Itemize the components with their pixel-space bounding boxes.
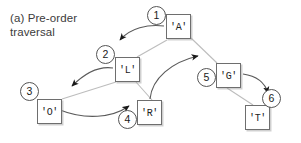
traversal-arrow-a-to-l bbox=[120, 26, 164, 40]
visit-order-badge-3: 3 bbox=[20, 82, 39, 101]
visit-order-badge-6-number: 6 bbox=[263, 90, 280, 107]
tree-edge-a-l bbox=[137, 40, 167, 57]
visit-order-badge-3-number: 3 bbox=[21, 83, 38, 100]
tree-node-o-label: 'O' bbox=[38, 100, 61, 125]
tree-node-a[interactable]: 'A' bbox=[166, 14, 191, 39]
traversal-arrow-l-to-o bbox=[72, 68, 113, 86]
tree-node-r[interactable]: 'R' bbox=[137, 100, 162, 125]
tree-edge-g-t bbox=[227, 88, 253, 105]
visit-order-badge-1-number: 1 bbox=[148, 7, 165, 24]
tree-node-l-label: 'L' bbox=[116, 58, 139, 83]
tree-node-t[interactable]: 'T' bbox=[245, 105, 270, 130]
visit-order-badge-1: 1 bbox=[147, 6, 166, 25]
tree-node-l[interactable]: 'L' bbox=[115, 57, 140, 82]
visit-order-badge-4: 4 bbox=[118, 110, 137, 129]
traversal-arrow-r-to-g bbox=[150, 56, 198, 99]
visit-order-badge-5: 5 bbox=[197, 68, 216, 87]
tree-node-g[interactable]: 'G' bbox=[216, 63, 241, 88]
visit-order-badge-6: 6 bbox=[262, 89, 281, 108]
tree-node-t-label: 'T' bbox=[246, 106, 269, 131]
visit-order-badge-2-number: 2 bbox=[97, 46, 114, 63]
tree-node-a-label: 'A' bbox=[167, 15, 190, 40]
pre-order-traversal-figure: (a) Pre-order traversal 'A' 'L bbox=[0, 0, 301, 143]
visit-order-badge-4-number: 4 bbox=[119, 111, 136, 128]
tree-edge-l-o bbox=[62, 82, 116, 99]
tree-edge-l-r bbox=[136, 82, 152, 100]
tree-node-g-label: 'G' bbox=[217, 64, 240, 89]
visit-order-badge-5-number: 5 bbox=[198, 69, 215, 86]
visit-order-badge-2: 2 bbox=[96, 45, 115, 64]
tree-edge-a-g bbox=[191, 38, 217, 63]
tree-node-r-label: 'R' bbox=[138, 101, 161, 126]
tree-node-o[interactable]: 'O' bbox=[37, 99, 62, 124]
